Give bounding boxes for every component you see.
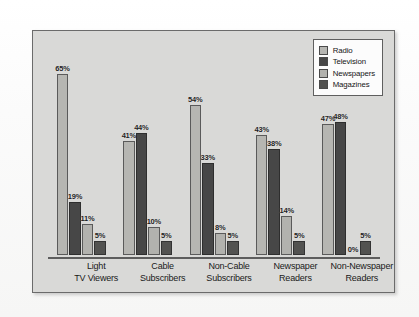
bar <box>256 135 268 255</box>
bar-value-label: 10% <box>147 217 161 226</box>
bar <box>268 149 280 255</box>
bar-value-label: 11% <box>80 214 94 223</box>
bar <box>57 74 69 255</box>
bar-column: 44% <box>136 123 148 255</box>
bar-value-label: 0% <box>348 245 358 254</box>
legend-label-radio: Radio <box>333 46 353 55</box>
legend-item-magazines: Magazines <box>319 79 375 90</box>
bar-value-label: 33% <box>201 153 215 162</box>
bar-value-label: 5% <box>360 231 370 240</box>
chart-screenshot: 65%19%11%5%41%44%10%5%54%33%8%5%43%38%14… <box>0 0 419 317</box>
category-label-line: Non-Newspaper <box>317 261 407 273</box>
legend-label-television: Television <box>333 57 366 66</box>
legend-swatch-newspapers <box>319 69 328 78</box>
bar-value-label: 5% <box>161 231 171 240</box>
bar <box>136 133 148 255</box>
bar-column: 0% <box>347 245 359 255</box>
bar-column: 48% <box>335 112 347 255</box>
bar-column: 5% <box>360 231 372 255</box>
legend-item-television: Television <box>319 56 375 67</box>
bar-column: 10% <box>148 217 160 255</box>
bar <box>202 163 214 255</box>
bar-column: 19% <box>69 192 81 255</box>
bar-value-label: 5% <box>95 231 105 240</box>
bar-value-label: 8% <box>215 223 225 232</box>
legend-label-newspapers: Newspapers <box>333 69 375 78</box>
bar <box>227 241 239 255</box>
bar <box>69 202 81 255</box>
legend-label-magazines: Magazines <box>333 80 370 89</box>
legend-swatch-radio <box>319 46 328 55</box>
category-axis-labels: LightTV ViewersCableSubscribersNon-Cable… <box>48 261 380 293</box>
bar <box>335 122 347 255</box>
bar <box>82 224 94 255</box>
bar-column: 38% <box>268 139 280 255</box>
bar-value-label: 41% <box>122 131 136 140</box>
bar <box>293 241 305 255</box>
bar-column: 5% <box>227 231 239 255</box>
bar-value-label: 44% <box>134 123 148 132</box>
bar-value-label: 65% <box>55 64 69 73</box>
bar <box>148 227 160 255</box>
bar-column: 41% <box>123 131 135 255</box>
x-axis-baseline <box>48 257 380 259</box>
bar-value-label: 5% <box>294 231 304 240</box>
bar-column: 47% <box>322 114 334 255</box>
bar-column: 33% <box>202 153 214 255</box>
bar-value-label: 14% <box>279 206 293 215</box>
legend-item-newspapers: Newspapers <box>319 68 375 79</box>
legend-swatch-magazines <box>319 80 328 89</box>
bar-group: 41%44%10%5% <box>123 65 172 255</box>
bar-value-label: 48% <box>333 112 347 121</box>
bar <box>123 141 135 255</box>
bar-column: 5% <box>94 231 106 255</box>
bar-column: 43% <box>256 125 268 255</box>
chart-legend: Radio Television Newspapers Magazines <box>313 39 383 96</box>
bar-column: 65% <box>57 64 69 255</box>
bar-value-label: 54% <box>188 95 202 104</box>
bar <box>190 105 202 255</box>
bar-group: 54%33%8%5% <box>190 65 239 255</box>
bar <box>322 124 334 255</box>
bar <box>281 216 293 255</box>
bar-column: 8% <box>215 223 227 255</box>
bar-value-label: 19% <box>68 192 82 201</box>
bar <box>94 241 106 255</box>
category-label: Non-NewspaperReaders <box>317 261 407 284</box>
bar <box>215 233 227 255</box>
bar-column: 11% <box>82 214 94 255</box>
category-label-line: Readers <box>317 273 407 285</box>
bar-column: 54% <box>190 95 202 255</box>
bar-value-label: 38% <box>267 139 281 148</box>
legend-swatch-television <box>319 57 328 66</box>
bar-group: 65%19%11%5% <box>57 65 106 255</box>
bar-value-label: 43% <box>254 125 268 134</box>
bar <box>360 241 372 255</box>
chart-frame: 65%19%11%5%41%44%10%5%54%33%8%5%43%38%14… <box>32 30 395 293</box>
bar-column: 14% <box>281 206 293 255</box>
bar <box>161 241 173 255</box>
bar-value-label: 5% <box>228 231 238 240</box>
bar-column: 5% <box>293 231 305 255</box>
bar-column: 5% <box>161 231 173 255</box>
bar-group: 43%38%14%5% <box>256 65 305 255</box>
legend-item-radio: Radio <box>319 45 375 56</box>
